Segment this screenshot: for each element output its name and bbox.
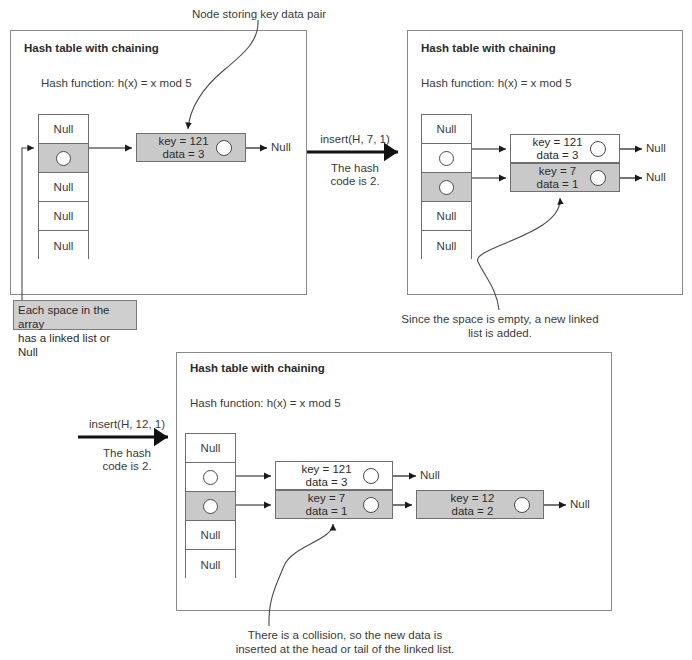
step-2-chain-0-tail-null: Null [646, 142, 666, 154]
node-text: key = 121 data = 3 [511, 136, 590, 161]
bucket-1[interactable] [186, 463, 235, 492]
step-3-caption: There is a collision, so the new data is… [155, 629, 535, 656]
array-note-callout: Each space in the array has a linked lis… [13, 300, 137, 330]
node-text: key = 12 data = 2 [417, 492, 514, 517]
node-text: key = 121 data = 3 [276, 463, 363, 488]
step-2-node-key-7[interactable]: key = 7 data = 1 [510, 163, 620, 192]
node-data-text: data = 3 [290, 476, 363, 489]
node-data-text: data = 3 [151, 148, 216, 161]
node-next-pointer-icon [514, 497, 530, 513]
node-data-text: data = 1 [525, 178, 590, 191]
bucket-4-label: Null [201, 559, 221, 571]
node-key-text: key = 121 [290, 463, 363, 476]
node-next-pointer-icon [216, 140, 232, 156]
node-key-text: key = 12 [431, 492, 514, 505]
bucket-4-label: Null [54, 240, 74, 252]
bucket-1-pointer-icon [203, 470, 218, 485]
bucket-3-label: Null [201, 529, 221, 541]
panel-2-title: Hash table with chaining [421, 42, 556, 54]
node-data-text: data = 1 [290, 505, 363, 518]
node-next-pointer-icon [590, 141, 606, 157]
bucket-1[interactable] [422, 144, 471, 173]
step-3-node-key-7[interactable]: key = 7 data = 1 [275, 490, 393, 519]
node-data-text: data = 3 [525, 149, 590, 162]
node-text: key = 121 data = 3 [137, 135, 216, 160]
bucket-4-label: Null [437, 240, 457, 252]
bucket-3[interactable]: Null [422, 202, 471, 231]
bucket-3[interactable]: Null [186, 521, 235, 550]
step-3-node-key-12[interactable]: key = 12 data = 2 [416, 490, 544, 519]
panel-1-hash-function: Hash function: h(x) = x mod 5 [41, 77, 192, 89]
bucket-2-label: Null [54, 181, 74, 193]
bucket-0[interactable]: Null [186, 434, 235, 463]
step-3-chain-0-tail-null: Null [420, 469, 440, 481]
node-key-text: key = 121 [525, 136, 590, 149]
bucket-3-label: Null [437, 210, 457, 222]
node-text: key = 7 data = 1 [276, 492, 363, 517]
transition-2-note: The hash code is 2. [72, 447, 182, 473]
bucket-1-pointer-icon [56, 151, 71, 166]
step-1-node-key-121[interactable]: key = 121 data = 3 [136, 133, 246, 162]
step-3-bucket-array: Null Null Null [185, 433, 236, 578]
node-next-pointer-icon [363, 468, 379, 484]
step-2-bucket-array: Null Null Null [421, 114, 472, 259]
node-key-text: key = 7 [525, 165, 590, 178]
bucket-0-label: Null [201, 442, 221, 454]
step-3-node-key-121[interactable]: key = 121 data = 3 [275, 461, 393, 490]
bucket-3[interactable]: Null [39, 202, 88, 231]
node-data-text: data = 2 [431, 505, 514, 518]
bucket-0[interactable]: Null [39, 115, 88, 144]
node-text: key = 7 data = 1 [511, 165, 590, 190]
step-2-caption: Since the space is empty, a new linked l… [385, 313, 615, 340]
transition-1-note: The hash code is 2. [305, 162, 405, 188]
step-2-node-key-121[interactable]: key = 121 data = 3 [510, 134, 620, 163]
bucket-0[interactable]: Null [422, 115, 471, 144]
step-2-chain-1-tail-null: Null [646, 171, 666, 183]
node-next-pointer-icon [590, 170, 606, 186]
bucket-4[interactable]: Null [422, 231, 471, 260]
bucket-2[interactable] [422, 173, 471, 202]
panel-3-title: Hash table with chaining [190, 362, 325, 374]
bucket-1-pointer-icon [439, 151, 454, 166]
bucket-1[interactable] [39, 144, 88, 173]
panel-2-hash-function: Hash function: h(x) = x mod 5 [421, 77, 572, 89]
step-1-bucket-array: Null Null Null Null [38, 114, 89, 259]
node-key-text: key = 121 [151, 135, 216, 148]
bucket-4[interactable]: Null [39, 231, 88, 260]
panel-step-3 [176, 352, 612, 611]
bucket-2-pointer-icon [439, 180, 454, 195]
node-key-text: key = 7 [290, 492, 363, 505]
bucket-2-pointer-icon [203, 499, 218, 514]
bucket-4[interactable]: Null [186, 550, 235, 579]
bucket-0-label: Null [437, 123, 457, 135]
step-1-chain-tail-null: Null [271, 141, 291, 153]
transition-2-op: insert(H, 12, 1) [72, 418, 182, 431]
bucket-3-label: Null [54, 210, 74, 222]
bucket-2[interactable] [186, 492, 235, 521]
node-next-pointer-icon [363, 497, 379, 513]
transition-1-op: insert(H, 7, 1) [305, 133, 405, 146]
top-caption-node-storing: Node storing key data pair [154, 8, 364, 22]
panel-3-hash-function: Hash function: h(x) = x mod 5 [190, 397, 341, 409]
bucket-2[interactable]: Null [39, 173, 88, 202]
step-3-chain-1-tail-null: Null [570, 498, 590, 510]
panel-1-title: Hash table with chaining [24, 42, 159, 54]
bucket-0-label: Null [54, 123, 74, 135]
